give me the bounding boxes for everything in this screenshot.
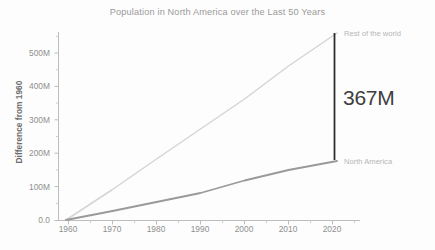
series-line-north-america xyxy=(66,161,337,220)
plot-canvas xyxy=(0,0,435,250)
x-axis-major-ticks xyxy=(69,221,333,225)
series-label-rest-of-the-world: Rest of the world xyxy=(344,29,401,38)
line-chart: Population in North America over the Las… xyxy=(0,0,435,250)
series-label-north-america: North America xyxy=(344,157,392,166)
difference-value-label: 367M xyxy=(343,86,394,110)
